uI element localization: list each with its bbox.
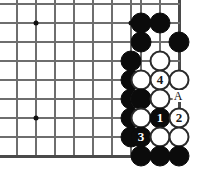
- stone-black: [150, 146, 171, 167]
- stone-white: [169, 127, 190, 148]
- stone-black: [131, 146, 152, 167]
- stone-move-3: 3: [131, 127, 152, 148]
- stone-move-1: 1: [150, 108, 171, 129]
- stone-black: [169, 32, 190, 53]
- star-point: [34, 116, 39, 121]
- move-number: 3: [138, 130, 145, 143]
- stone-black: [169, 146, 190, 167]
- stone-black: [150, 13, 171, 34]
- stone-white: [131, 70, 152, 91]
- move-number: 2: [176, 111, 183, 124]
- stone-black: [131, 89, 152, 110]
- stone-black: [121, 51, 142, 72]
- go-board-diagram: 4123 A: [0, 0, 201, 174]
- stone-white: [169, 70, 190, 91]
- move-number: 4: [157, 73, 164, 86]
- star-point: [34, 21, 39, 26]
- stone-black: [131, 13, 152, 34]
- point-label-a: A: [173, 90, 184, 102]
- grid-line-horizontal: [0, 3, 180, 5]
- stone-white: [131, 108, 152, 129]
- stone-black: [131, 32, 152, 53]
- move-number: 1: [157, 111, 164, 124]
- stone-white: [150, 51, 171, 72]
- stone-move-4: 4: [150, 70, 171, 91]
- stone-white: [150, 89, 171, 110]
- stone-move-2: 2: [169, 108, 190, 129]
- grid-line-horizontal: [0, 41, 180, 43]
- stone-white: [150, 127, 171, 148]
